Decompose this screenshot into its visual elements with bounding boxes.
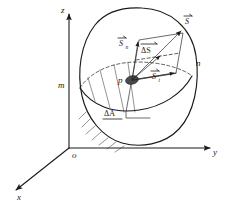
area-label: ΔA: [104, 109, 115, 118]
x-axis-label: x: [16, 192, 21, 202]
normal-component-overbar: [118, 36, 126, 38]
delta-s-overbar: [141, 42, 157, 44]
normal-component-label-group: S n: [118, 36, 129, 49]
cut-section: m n: [58, 58, 201, 112]
tangential-component-label: S: [152, 72, 156, 81]
section-rear-edge-hidden: [80, 62, 192, 88]
origin-label: o: [72, 150, 77, 160]
area-element: ΔA p: [103, 74, 150, 119]
section-edge-left-label: m: [58, 80, 65, 90]
resultant-vector-label-group: S: [184, 14, 192, 26]
resultant-vector-arrow: [132, 31, 181, 80]
tangential-component-subscript: t: [159, 77, 161, 83]
x-axis-line: [16, 148, 69, 190]
support-hatching: [79, 112, 124, 152]
resultant-vector-overbar: [184, 14, 192, 16]
y-axis-label: y: [212, 147, 217, 157]
figure-canvas: z y x o m n: [0, 0, 229, 204]
coordinate-axes: z y x o: [16, 5, 217, 202]
stress-vector-figure: z y x o m n: [0, 0, 229, 204]
body-outline: [80, 8, 197, 145]
normal-component-subscript: n: [126, 44, 129, 50]
delta-s-label: ΔS: [141, 46, 151, 55]
section-edge-right-label: n: [196, 58, 201, 68]
z-axis-label: z: [60, 5, 65, 15]
point-p-label: p: [117, 75, 123, 85]
tangential-component-overbar: [151, 69, 159, 71]
area-label-leader: [126, 84, 150, 118]
section-ruling-lines: [88, 63, 135, 112]
body-boundary-curve: [80, 8, 197, 145]
normal-component-label: S: [119, 39, 123, 48]
normal-component-arrow: [132, 42, 138, 80]
resultant-vector-label: S: [185, 17, 189, 26]
delta-s-label-group: ΔS: [141, 42, 157, 55]
tangential-component-label-group: S t: [151, 69, 161, 82]
